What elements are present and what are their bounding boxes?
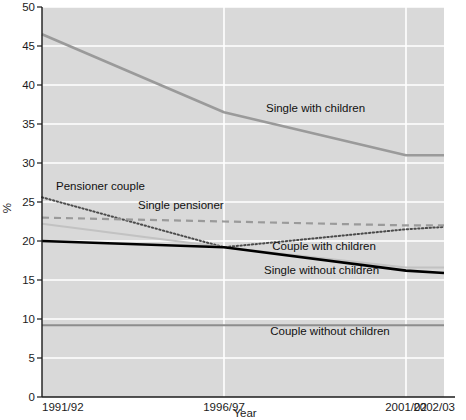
y-tick-label-50: 50 (22, 1, 35, 13)
y-axis-title: % (1, 203, 13, 213)
y-tick-label-15: 15 (22, 274, 35, 286)
x-tick-label-2002-03: 2002/03 (413, 401, 455, 413)
series-label-single-with-children: Single with children (266, 102, 365, 114)
y-tick-label-25: 25 (22, 196, 35, 208)
chart-container: 05101520253035404550 1991/921996/972001/… (0, 0, 466, 420)
y-tick-label-10: 10 (22, 313, 35, 325)
y-tick-label-5: 5 (29, 352, 35, 364)
series-label-couple-with-children: Couple with children (272, 240, 376, 252)
y-tick-label-30: 30 (22, 157, 35, 169)
line-chart: 05101520253035404550 1991/921996/972001/… (0, 0, 466, 420)
series-label-couple-without-children: Couple without children (270, 325, 390, 337)
y-tick-label-0: 0 (29, 391, 35, 403)
y-tick-label-40: 40 (22, 79, 35, 91)
y-tick-label-20: 20 (22, 235, 35, 247)
series-label-pensioner-couple: Pensioner couple (56, 180, 145, 192)
series-label-single-without-children: Single without children (264, 264, 379, 276)
y-axis-tick-labels: 05101520253035404550 (22, 1, 42, 403)
y-tick-label-45: 45 (22, 40, 35, 52)
series-label-single-pensioner: Single pensioner (138, 199, 224, 211)
x-axis-title: Year (233, 407, 256, 419)
y-tick-label-35: 35 (22, 118, 35, 130)
x-tick-label-1991-92: 1991/92 (42, 401, 84, 413)
